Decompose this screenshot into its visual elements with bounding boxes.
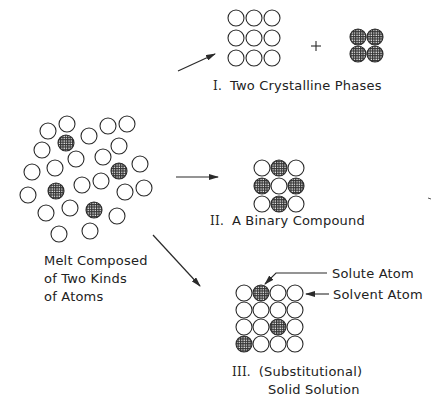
solid-solution-lattice xyxy=(236,285,303,352)
phase-III-numeral: III. xyxy=(232,365,251,379)
solvent-atom xyxy=(47,160,63,176)
solvent-atom xyxy=(40,123,56,139)
melt-atom-cluster xyxy=(20,116,152,242)
phase-I-crystal-B xyxy=(350,29,383,62)
solvent-atom xyxy=(109,208,125,224)
solute-atom-label: Solute Atom xyxy=(332,266,414,282)
solvent-atom xyxy=(74,177,90,193)
solvent-atom xyxy=(51,226,67,242)
solute-atom xyxy=(48,183,64,199)
binary-compound-lattice xyxy=(254,160,304,212)
melt-label: Melt Composed of Two Kinds of Atoms xyxy=(44,252,148,306)
solidification-diagram xyxy=(0,0,436,409)
solvent-atom xyxy=(117,184,133,200)
phase-I-crystal-A xyxy=(228,10,280,66)
phase-II-numeral: II. xyxy=(210,214,224,228)
melt-label-line-2: of Two Kinds xyxy=(44,270,148,288)
solvent-atom xyxy=(132,156,148,172)
plus-sign xyxy=(311,41,321,51)
stray-mark xyxy=(428,198,431,199)
solute-atom xyxy=(86,202,102,218)
arrow-to-phase-I xyxy=(178,54,215,71)
solvent-atom xyxy=(34,142,50,158)
arrow-to-phase-III xyxy=(153,235,200,286)
solvent-atom xyxy=(93,173,109,189)
solvent-atom-label: Solvent Atom xyxy=(333,287,423,303)
solute-atom xyxy=(58,135,74,151)
phase-I-numeral: I. xyxy=(213,79,222,93)
solvent-atom xyxy=(95,149,111,165)
phase-III-title-line-2: Solid Solution xyxy=(232,381,362,399)
solute-atom xyxy=(111,163,127,179)
phase-I-label: I.Two Crystalline Phases xyxy=(213,78,382,94)
solvent-atom xyxy=(136,180,152,196)
phase-II-label: II.A Binary Compound xyxy=(210,213,365,229)
solvent-atom xyxy=(62,200,78,216)
solvent-atom xyxy=(59,116,75,132)
phase-III-label: III.(Substitutional) Solid Solution xyxy=(232,363,362,399)
melt-label-line-3: of Atoms xyxy=(44,288,148,306)
phase-I-title: Two Crystalline Phases xyxy=(230,78,382,93)
solvent-atom xyxy=(111,138,127,154)
solvent-atom xyxy=(100,118,116,134)
solvent-atom xyxy=(20,187,36,203)
solvent-atom xyxy=(82,223,98,239)
phase-II-title: A Binary Compound xyxy=(232,213,365,228)
phase-III-title-line-1: (Substitutional) xyxy=(259,364,362,379)
solvent-atom xyxy=(119,116,135,132)
solvent-atom xyxy=(38,205,54,221)
solute-atom-leader xyxy=(265,273,327,284)
solvent-atom xyxy=(24,164,40,180)
solvent-atom xyxy=(81,128,97,144)
melt-label-line-1: Melt Composed xyxy=(44,252,148,270)
solvent-atom xyxy=(68,151,84,167)
